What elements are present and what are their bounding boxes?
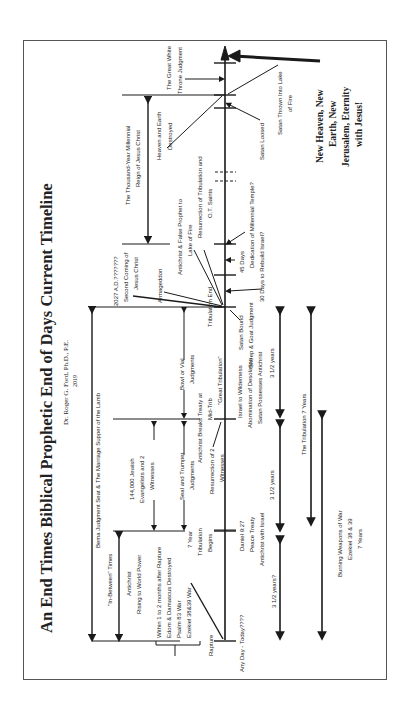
abomination-label: Abomination of Desolation xyxy=(246,358,254,428)
year: 2019 xyxy=(72,375,79,387)
eternity-line-4: with Jesus! xyxy=(353,102,365,147)
within-label-3: Psalm 83 War xyxy=(175,601,183,638)
half-period-3-label: 3 1/2 years xyxy=(268,348,276,378)
rebuild-label: 30 Days to Rebuild Israel? xyxy=(258,232,266,302)
israel-wilderness-label: Israel to Wilderness xyxy=(236,365,244,418)
half-period-2-label: 3 1/2 years xyxy=(268,470,276,500)
thousand-year-label-2: Reign of Jesus Christ xyxy=(134,130,142,187)
breaks-treaty-label: Antichrist Breaks Treaty at xyxy=(196,393,204,463)
antichrist-rising-label-2: Rising to World Power xyxy=(135,555,143,614)
satan-thrown-label-2: of Fire xyxy=(286,95,294,112)
resurrection-ot-label-1: Resurrection of Tribulation and xyxy=(196,156,204,238)
burning-label-1: Burning Weapons of War xyxy=(336,510,344,577)
trib-end-label: Tribulation End xyxy=(206,287,214,327)
burning-label-3: 7 Years xyxy=(356,529,364,549)
seal-label-1: Seal and Trumpet xyxy=(178,453,186,500)
within-label-4: Ezekiel 38&39 War xyxy=(185,587,193,638)
witnesses-144-label-1: 144,000 Jewish xyxy=(128,458,136,500)
any-day-label: Any Day - Today???? xyxy=(238,615,246,672)
seven-year-label-3: Begins xyxy=(206,534,214,552)
burning-label-2: Ezekiel 38 & 39 xyxy=(346,518,354,560)
antichrist-false-label-1: Antichrist & False Prophet to xyxy=(176,199,184,275)
daniel-label-2: Peace Treaty xyxy=(248,517,256,552)
second-coming-label-1: 2027 A.D.??????? xyxy=(112,256,120,306)
satan-thrown-label-1: Satan Thrown Into Lake xyxy=(276,71,284,135)
witnesses-144-label-3: Witnesses xyxy=(148,462,156,490)
within-label-1: Within 1 to 2 months after Rapture xyxy=(155,547,163,638)
daniel-label-3: Antichrist with Israel xyxy=(258,513,266,566)
armageddon-label: Armageddon xyxy=(156,269,164,303)
eternity-line-2: Earth, New xyxy=(327,101,339,147)
dedication-label-2: Dedication of Millennial Temple? xyxy=(248,182,256,268)
within-label-2: Edom & Damascus Destroyed xyxy=(165,558,173,638)
eternity-line-3: Jerusalem, Eternity xyxy=(340,87,352,167)
heaven-earth-label-2: Destroyed xyxy=(166,123,174,150)
bowl-label-1: Bowl or Vial xyxy=(178,358,186,390)
bowl-label-2: Judgments xyxy=(188,355,196,384)
in-between-label: "In-Between" Times xyxy=(106,554,114,606)
eternity-line-1: New Heaven, New xyxy=(314,89,326,163)
second-coming-label-2: Second Coming of xyxy=(122,253,130,302)
dedication-label-1: 45 Days xyxy=(238,251,246,273)
antichrist-false-label-2: Lake of Fire xyxy=(186,224,194,256)
seven-year-label-2: Tribulation xyxy=(196,528,204,556)
author: Dr. Roger G. Ford, Ph.D., P.E. xyxy=(62,340,70,425)
page-title: An End Times Biblical Prophetic End of D… xyxy=(38,183,56,633)
half-period-1-label: 3 1/2 years? xyxy=(270,575,278,608)
heaven-earth-label-1: Heaven and Earth xyxy=(155,112,163,160)
bema-label: Bema Judgment Seat & The Marriage Supper… xyxy=(94,393,102,548)
satan-bound-label: Satan Bound xyxy=(237,315,245,350)
great-white-label-2: Throne Judgment xyxy=(176,47,184,94)
daniel-label-1: Daniel 9:27 xyxy=(238,521,246,551)
satan-loosed-label: Satan Loosed xyxy=(258,123,266,160)
great-white-label-1: The Great White xyxy=(165,46,173,90)
second-coming-label-3: Jesus Christ xyxy=(132,257,140,290)
seal-label-2: Judgments xyxy=(188,461,196,490)
thousand-year-label-1: The Thousand-Year Millennial xyxy=(124,126,132,205)
resurrection-ot-label-2: O.T. Saints xyxy=(206,189,214,218)
seven-year-label-1: 7 Year xyxy=(186,531,194,548)
res-two-label-2: Witnesses xyxy=(218,454,226,482)
satan-possesses-label: Satan Possesses Antichrist xyxy=(256,352,264,424)
antichrist-rising-label-1: Antichrist xyxy=(125,571,133,596)
witnesses-144-label-2: Evangelists and 2 xyxy=(138,456,146,503)
great-trib-label: "Great Tribulation" xyxy=(216,356,224,405)
res-two-label-1: Resurrection of 2 xyxy=(208,448,216,494)
tribulation-7-label: The Tribulation 7 Years xyxy=(300,394,308,455)
mid-trib-label: Mid-Trib xyxy=(206,398,214,420)
rapture-label: Rapture xyxy=(207,635,215,656)
